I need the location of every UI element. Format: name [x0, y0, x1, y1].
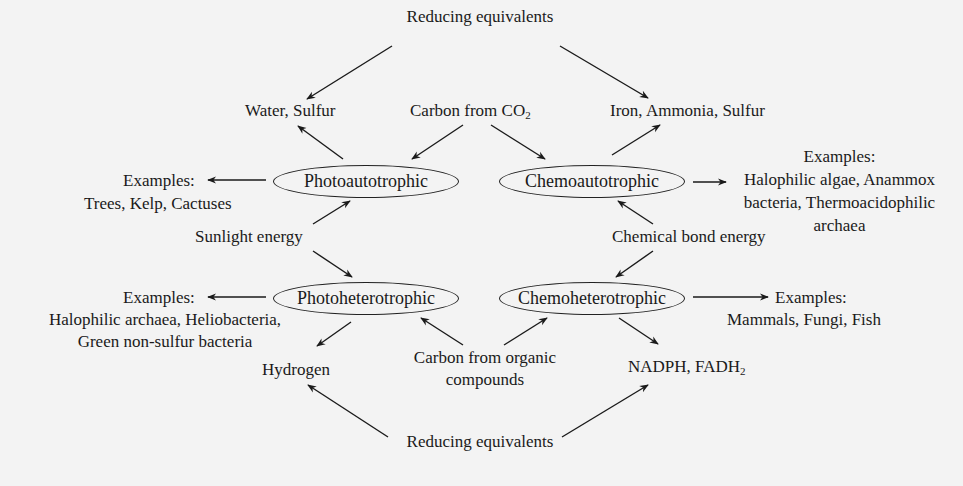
carbon-organic-line-2: compounds: [390, 369, 580, 391]
arrow-reducing-to-water: [307, 46, 392, 99]
donor-chemoheterotrophic: NADPH, FADH2: [628, 356, 746, 378]
chemical-bond-energy: Chemical bond energy: [612, 226, 766, 248]
arrows-layer: [0, 0, 963, 486]
arrow-chemical-to-chemoauto: [618, 201, 653, 224]
arrow-sunlight-to-photoauto: [313, 201, 350, 224]
reducing-equivalents-bottom: Reducing equivalents: [380, 431, 580, 453]
donor-chemoautotrophic: Iron, Ammonia, Sulfur: [610, 100, 765, 122]
reducing-equivalents-top: Reducing equivalents: [380, 6, 580, 28]
examples-chemoauto-label: Examples:: [727, 146, 952, 168]
carbon-organic-line-1: Carbon from organic: [390, 347, 580, 369]
node-chemoheterotrophic: Chemoheterotrophic: [499, 282, 685, 315]
carbon-from-co2: Carbon from CO2: [410, 100, 531, 122]
examples-photohetero-line-1: Halophilic archaea, Heliobacteria,: [20, 309, 310, 331]
examples-photoauto-line: Trees, Kelp, Cactuses: [84, 193, 232, 215]
node-photoautotrophic: Photoautotrophic: [273, 165, 459, 198]
donor-photoautotrophic: Water, Sulfur: [245, 100, 335, 122]
arrow-photoauto-to-water: [298, 126, 343, 159]
arrow-chemoauto-to-iron: [612, 125, 660, 155]
arrow-reducing-to-nadph: [562, 385, 648, 437]
arrow-organic-to-chemohetero: [504, 318, 547, 345]
node-chemoautotrophic: Chemoautotrophic: [499, 165, 685, 198]
examples-photoauto-label: Examples:: [123, 170, 195, 192]
arrow-sunlight-to-photohetero: [313, 251, 352, 277]
donor-photoheterotrophic: Hydrogen: [262, 359, 330, 381]
arrow-reducing-to-hydrogen: [308, 385, 388, 437]
sunlight-energy: Sunlight energy: [195, 226, 303, 248]
carbon-co2-subscript: 2: [525, 109, 531, 121]
examples-photohetero-label: Examples:: [123, 287, 195, 309]
examples-chemoauto-line-1: Halophilic algae, Anammox: [727, 169, 952, 191]
examples-chemohetero-label: Examples:: [775, 287, 847, 309]
fadh-subscript: 2: [740, 365, 746, 377]
arrow-reducing-to-iron: [560, 46, 648, 98]
examples-photohetero-line-2: Green non-sulfur bacteria: [20, 331, 310, 353]
nadph-text: NADPH, FADH: [628, 357, 740, 376]
carbon-co2-text: Carbon from CO: [410, 101, 525, 120]
arrow-photohetero-to-hydrogen: [317, 322, 351, 346]
arrow-chemical-to-chemohetero: [616, 251, 653, 277]
arrow-organic-to-photohetero: [421, 318, 463, 345]
arrow-chemohetero-to-nadph: [619, 318, 658, 344]
examples-chemohetero-line: Mammals, Fungi, Fish: [727, 309, 881, 331]
examples-chemoauto-line-2: bacteria, Thermoacidophilic: [727, 192, 952, 214]
arrow-co2-to-photoauto: [412, 125, 463, 159]
arrow-co2-to-chemoauto: [491, 125, 545, 159]
